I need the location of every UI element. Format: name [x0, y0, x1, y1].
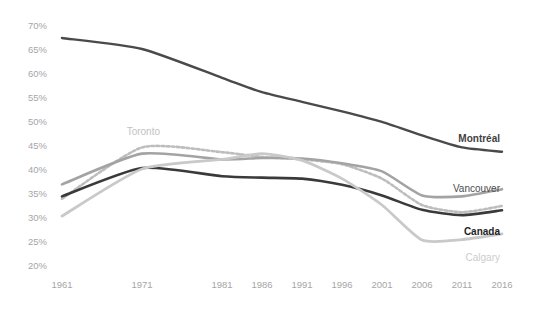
y-axis-tick-label: 30% — [28, 212, 48, 223]
series-lines — [62, 38, 502, 242]
x-axis-tick-label: 2011 — [452, 279, 472, 290]
x-axis-tick-label: 2006 — [411, 279, 432, 290]
series-label-vancouver: Vancouver — [453, 183, 501, 194]
x-axis-tick-label: 1961 — [51, 279, 72, 290]
x-axis-tick-label: 1981 — [211, 279, 232, 290]
y-axis-tick-labels: 70%65%60%55%50%45%40%35%30%25%20% — [28, 20, 48, 271]
y-axis-tick-label: 50% — [28, 116, 48, 127]
x-axis-tick-label: 1971 — [131, 279, 152, 290]
x-axis-tick-label: 2001 — [371, 279, 392, 290]
x-axis-tick-labels: 1961197119811986199119962001200620112016 — [51, 279, 512, 290]
x-axis-tick-label: 1991 — [291, 279, 312, 290]
series-label-toronto: Toronto — [127, 126, 161, 137]
y-axis-tick-label: 40% — [28, 164, 48, 175]
y-axis-tick-label: 70% — [28, 20, 48, 31]
y-axis-tick-label: 65% — [28, 44, 48, 55]
y-axis-tick-label: 25% — [28, 236, 48, 247]
y-axis-tick-label: 35% — [28, 188, 48, 199]
x-axis-tick-label: 2016 — [491, 279, 512, 290]
y-axis-tick-label: 55% — [28, 92, 48, 103]
x-axis-tick-label: 1986 — [251, 279, 272, 290]
line-chart: 70%65%60%55%50%45%40%35%30%25%20% 196119… — [0, 0, 535, 310]
series-label-montréal: Montréal — [458, 133, 500, 144]
y-axis-tick-label: 60% — [28, 68, 48, 79]
chart-plot-area: 70%65%60%55%50%45%40%35%30%25%20% 196119… — [0, 0, 535, 310]
series-label-canada: Canada — [464, 226, 501, 237]
series-label-calgary: Calgary — [466, 252, 500, 263]
x-axis-tick-label: 1996 — [331, 279, 352, 290]
y-axis-tick-label: 20% — [28, 260, 48, 271]
y-axis-tick-label: 45% — [28, 140, 48, 151]
